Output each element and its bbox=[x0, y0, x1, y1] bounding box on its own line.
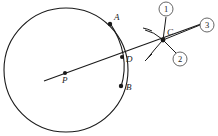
label-point-p: P bbox=[61, 75, 68, 85]
callout-2: 2 bbox=[173, 52, 187, 66]
label-point-c: C bbox=[167, 27, 174, 37]
point-marker-a bbox=[108, 22, 112, 26]
label-point-d: D bbox=[125, 54, 133, 64]
geometry-figure: A B D P C 1 2 3 bbox=[0, 0, 218, 136]
callout-1-label: 1 bbox=[164, 4, 168, 14]
geometry-canvas: A B D P C 1 2 3 bbox=[0, 0, 218, 136]
point-marker-c bbox=[161, 38, 166, 43]
label-point-b: B bbox=[126, 82, 132, 92]
label-point-a: A bbox=[113, 12, 120, 22]
callout-1: 1 bbox=[159, 2, 173, 16]
callout-2-label: 2 bbox=[178, 54, 182, 64]
main-circle bbox=[4, 8, 128, 132]
compass-arc-tail-lower bbox=[145, 54, 152, 61]
leader-to-callout-2 bbox=[163, 40, 176, 53]
callout-3: 3 bbox=[200, 18, 214, 32]
point-marker-b bbox=[119, 84, 123, 88]
callout-3-label: 3 bbox=[205, 20, 209, 30]
point-marker-d bbox=[120, 55, 124, 59]
compass-arc-upper-left bbox=[145, 30, 162, 39]
